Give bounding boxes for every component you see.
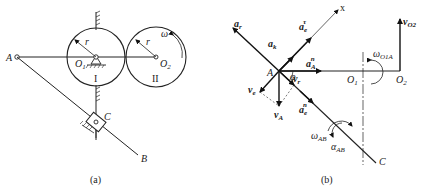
label-gear-1: I: [94, 73, 97, 84]
label-a-r: ar: [234, 18, 242, 31]
label-gear-2: II: [152, 73, 159, 84]
label-v-e: ve: [248, 84, 256, 97]
omega-O1A-arc-icon: [371, 60, 383, 84]
label-a-e-n: aen: [299, 101, 307, 117]
panel-a: A B C O1 O2 r r ω I II (a): [5, 11, 186, 186]
label-B: B: [141, 153, 147, 164]
caption-b: (b): [321, 174, 333, 186]
label-x: x: [340, 2, 345, 13]
parallelogram-dash-2: [279, 85, 294, 106]
label-omega: ω: [161, 28, 168, 39]
label-O1-b: O1: [347, 74, 358, 87]
label-C: C: [104, 111, 111, 122]
label-v-O2: vO2: [403, 16, 417, 29]
label-O1: O1: [75, 58, 86, 71]
label-v-r: vr: [293, 73, 300, 86]
label-v-A: vA: [274, 109, 283, 122]
pin-C: [94, 120, 98, 124]
label-A: A: [5, 52, 13, 63]
caption-a: (a): [90, 174, 101, 186]
label-a-A-n: aAn: [306, 55, 316, 71]
omega-arc-icon: [173, 35, 182, 58]
diagram-canvas: A B C O1 O2 r r ω I II (a): [0, 0, 421, 190]
vector-a-k: [279, 57, 293, 71]
panel-b: A C x O1 O2 φ ar ak aeτ aAn aen ve vr vA…: [233, 2, 417, 186]
label-r1: r: [85, 36, 89, 47]
label-A-b: A: [266, 67, 274, 78]
label-C-b: C: [379, 156, 386, 167]
label-a-e-tau: aeτ: [299, 18, 307, 34]
rod-AB: [17, 57, 138, 155]
fixed-support-top: [96, 11, 100, 30]
label-omega-AB: ωAB: [311, 130, 327, 143]
label-omega-O1A: ωO1A: [373, 48, 394, 61]
label-O2: O2: [160, 58, 171, 71]
label-O2-b: O2: [396, 74, 407, 87]
label-r2: r: [146, 36, 150, 47]
parallelogram-dash-1: [260, 92, 279, 106]
label-a-k: ak: [268, 38, 277, 51]
label-alpha-AB: αAB: [331, 141, 346, 154]
